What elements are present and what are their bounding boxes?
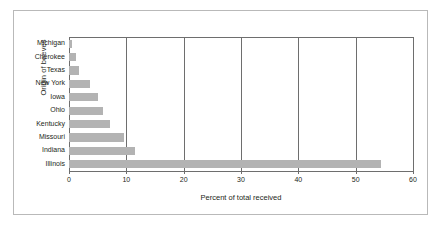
category-label-missouri: Missouri (39, 133, 65, 141)
gridline-50 (356, 37, 357, 171)
x-tick-label-40: 40 (294, 176, 302, 183)
category-label-texas: Texas (47, 66, 65, 74)
figure-frame: Origin of beeves Michigan Cherokee Texas (13, 10, 428, 215)
bar-texas (69, 66, 79, 74)
gridline-20 (184, 37, 185, 171)
tick-mark-20 (184, 171, 185, 174)
x-tick-label-0: 0 (67, 176, 71, 183)
x-tick-label-60: 60 (409, 176, 417, 183)
category-label-iowa: Iowa (50, 93, 65, 101)
tick-mark-50 (356, 171, 357, 174)
category-label-michigan: Michigan (37, 39, 65, 47)
bar-new-york (69, 80, 90, 88)
bar-ohio (69, 107, 103, 115)
category-label-indiana: Indiana (42, 146, 65, 154)
tick-mark-10 (126, 171, 127, 174)
category-label-kentucky: Kentucky (36, 120, 65, 128)
category-label-cherokee: Cherokee (35, 53, 65, 61)
tick-mark-40 (298, 171, 299, 174)
bar-illinois (69, 160, 381, 168)
gridline-40 (298, 37, 299, 171)
bar-cherokee (69, 53, 76, 61)
bar-missouri (69, 133, 124, 141)
category-label-new-york: New York (35, 79, 65, 87)
category-label-illinois: Illinois (46, 160, 65, 168)
bar-michigan (69, 40, 72, 48)
tick-mark-60 (413, 171, 414, 174)
plot-area: Michigan Cherokee Texas New York Iowa Oh… (69, 37, 413, 171)
bar-iowa (69, 93, 98, 101)
x-tick-label-20: 20 (180, 176, 188, 183)
category-label-ohio: Ohio (50, 106, 65, 114)
x-axis-title: Percent of total received (69, 193, 413, 202)
x-tick-label-50: 50 (352, 176, 360, 183)
x-tick-label-10: 10 (122, 176, 130, 183)
gridline-30 (241, 37, 242, 171)
chart-page: Origin of beeves Michigan Cherokee Texas (0, 0, 441, 229)
bar-kentucky (69, 120, 110, 128)
tick-mark-0 (69, 171, 70, 174)
bar-indiana (69, 147, 135, 155)
tick-mark-30 (241, 171, 242, 174)
gridline-60 (413, 37, 414, 171)
x-tick-label-30: 30 (237, 176, 245, 183)
